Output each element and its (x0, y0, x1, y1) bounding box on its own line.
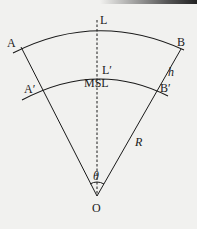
outer-arc (13, 31, 184, 53)
label-B: B (177, 35, 185, 49)
label-h: h (168, 65, 174, 79)
label-theta: θ (93, 169, 99, 183)
geodesy-diagram: L A B L′ MSL A′ B′ h R θ O (0, 0, 197, 229)
label-MSL: MSL (84, 76, 109, 90)
label-L: L (100, 13, 107, 27)
label-A: A (7, 36, 16, 50)
radius-line-left (21, 47, 97, 196)
label-R: R (134, 135, 143, 149)
label-L-prime: L′ (102, 63, 112, 77)
label-B-prime: B′ (160, 81, 171, 95)
label-O: O (92, 201, 101, 215)
label-A-prime: A′ (24, 82, 36, 96)
